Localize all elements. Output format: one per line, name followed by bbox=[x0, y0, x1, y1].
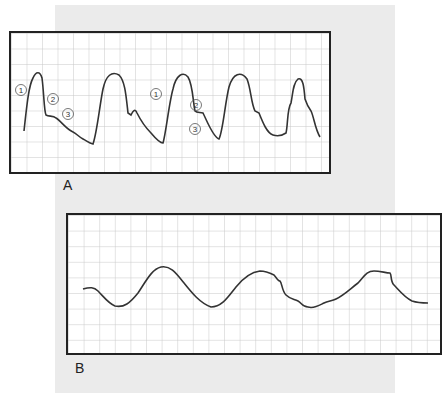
svg-text:2: 2 bbox=[51, 95, 56, 104]
svg-text:3: 3 bbox=[193, 125, 198, 134]
waveform-panel-b bbox=[66, 213, 442, 355]
svg-text:2: 2 bbox=[194, 101, 199, 110]
svg-text:3: 3 bbox=[66, 110, 71, 119]
waveform-panel-a: 1 2 3 1 2 3 bbox=[9, 31, 331, 174]
waveform-a-graphic: 1 2 3 1 2 3 bbox=[11, 33, 329, 172]
svg-text:1: 1 bbox=[19, 86, 24, 95]
waveform-b-graphic bbox=[68, 215, 440, 353]
panel-b-label: B bbox=[75, 360, 84, 376]
panel-a-label: A bbox=[63, 177, 72, 193]
svg-text:1: 1 bbox=[154, 90, 159, 99]
